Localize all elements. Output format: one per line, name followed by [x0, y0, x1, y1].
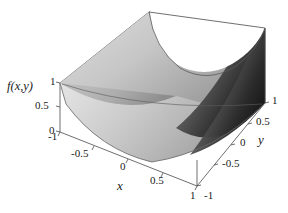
x-tick-neg05 — [92, 146, 94, 150]
x-tick-label-05: 0.5 — [150, 174, 164, 186]
surface-plot-figure: f(x,y) 1 0.5 0 -1 -0.5 0 0.5 1 x 1 0.5 0… — [0, 0, 288, 213]
y-tick-1 — [265, 102, 269, 103]
y-tick-label-0: 0 — [240, 136, 246, 148]
x-tick-0 — [126, 159, 128, 163]
x-axis-label: x — [117, 178, 123, 194]
z-tick-1 — [56, 82, 60, 83]
z-tick-label-05: 0.5 — [35, 99, 49, 111]
y-axis-label: y — [258, 132, 264, 148]
z-axis-label: f(x,y) — [7, 79, 33, 94]
x-tick-label-neg05: -0.5 — [71, 147, 88, 159]
x-tick-neg1 — [58, 132, 60, 136]
y-tick-label-neg05: -0.5 — [222, 157, 239, 169]
z-tick-label-1: 1 — [50, 75, 56, 87]
z-tick-05 — [56, 106, 60, 107]
y-tick-label-05: 0.5 — [256, 115, 270, 127]
x-tick-label-neg1: -1 — [48, 130, 57, 142]
x-tick-label-1: 1 — [190, 189, 196, 201]
x-tick-label-0: 0 — [120, 160, 126, 172]
y-tick-label-neg1: -1 — [204, 189, 213, 201]
y-tick-label-1: 1 — [272, 94, 278, 106]
